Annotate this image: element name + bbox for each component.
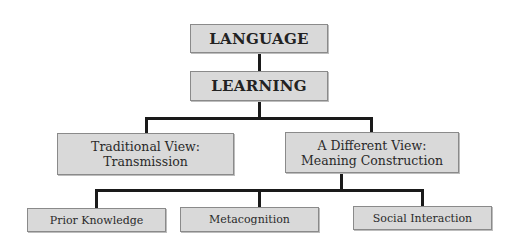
connector-to-prior-knowledge: [95, 189, 98, 208]
node-metacognition-label: Metacognition: [209, 213, 290, 226]
connector-to-different: [370, 117, 373, 132]
node-prior-knowledge: Prior Knowledge: [27, 208, 166, 232]
node-traditional-view: Traditional View: Transmission: [57, 133, 234, 175]
node-traditional-view-line2: Transmission: [103, 154, 188, 169]
node-learning-label: LEARNING: [211, 77, 307, 95]
node-learning: LEARNING: [190, 71, 328, 101]
node-different-view: A Different View: Meaning Construction: [285, 132, 459, 173]
connector-language-learning: [258, 53, 261, 71]
node-different-view-line1: A Different View:: [318, 138, 427, 153]
connector-to-social-interaction: [421, 189, 424, 206]
connector-learning-down: [258, 101, 261, 118]
node-different-view-line2: Meaning Construction: [301, 153, 443, 168]
connector-different-down: [340, 173, 343, 190]
node-social-interaction-label: Social Interaction: [373, 212, 472, 225]
node-traditional-view-line1: Traditional View:: [91, 139, 200, 154]
node-social-interaction: Social Interaction: [353, 206, 492, 230]
connector-to-traditional: [145, 117, 148, 133]
node-metacognition: Metacognition: [180, 207, 319, 232]
connector-to-metacognition: [258, 189, 261, 207]
node-prior-knowledge-label: Prior Knowledge: [50, 214, 144, 227]
connector-level2-horizontal: [145, 117, 372, 120]
node-language: LANGUAGE: [190, 24, 328, 53]
node-language-label: LANGUAGE: [209, 30, 309, 48]
